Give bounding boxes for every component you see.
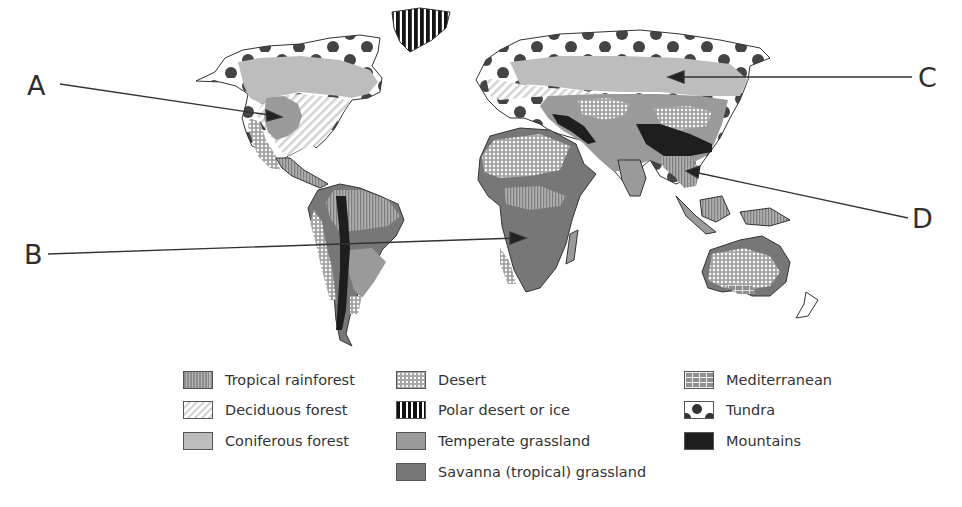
callout-label-c: C xyxy=(918,64,937,91)
legend-label: Savanna (tropical) grassland xyxy=(438,464,646,480)
legend-item-coniferous-forest: Coniferous forest xyxy=(183,430,349,452)
australia xyxy=(702,236,818,318)
coniferous-forest-swatch xyxy=(183,432,213,450)
legend-label: Polar desert or ice xyxy=(438,402,570,418)
legend-item-savanna: Savanna (tropical) grassland xyxy=(396,461,646,483)
legend-item-tundra: Tundra xyxy=(684,399,775,421)
legend-item-tropical-rainforest: Tropical rainforest xyxy=(183,369,355,391)
legend-item-temperate-grassland: Temperate grassland xyxy=(396,430,590,452)
legend-label: Coniferous forest xyxy=(225,433,349,449)
map-graphic xyxy=(0,0,962,360)
north-america xyxy=(196,35,382,188)
deciduous-forest-swatch xyxy=(183,401,213,419)
callout-label-a: A xyxy=(27,72,45,99)
mediterranean-swatch xyxy=(684,371,714,389)
legend-item-mountains: Mountains xyxy=(684,430,801,452)
legend-item-deciduous-forest: Deciduous forest xyxy=(183,399,348,421)
legend-label: Tundra xyxy=(726,402,775,418)
legend-label: Desert xyxy=(438,372,486,388)
legend-label: Mediterranean xyxy=(726,372,832,388)
mountains-swatch xyxy=(684,432,714,450)
savanna-swatch xyxy=(396,463,426,481)
callout-line-b xyxy=(48,238,518,254)
callout-label-d: D xyxy=(912,205,933,232)
legend-label: Mountains xyxy=(726,433,801,449)
africa xyxy=(478,128,596,292)
world-biome-map: A B C D xyxy=(0,0,962,360)
se-asia-islands xyxy=(676,196,790,234)
tropical-rainforest-swatch xyxy=(183,371,213,389)
greenland xyxy=(392,8,450,52)
legend: Tropical rainforest Deciduous forest Con… xyxy=(183,369,883,499)
legend-label: Temperate grassland xyxy=(438,433,590,449)
tundra-swatch xyxy=(684,401,714,419)
polar-desert-ice-swatch xyxy=(396,401,426,419)
desert-swatch xyxy=(396,371,426,389)
legend-label: Deciduous forest xyxy=(225,402,348,418)
south-america xyxy=(308,184,404,346)
temperate-grassland-swatch xyxy=(396,432,426,450)
callout-label-b: B xyxy=(24,241,43,268)
legend-item-polar-desert-ice: Polar desert or ice xyxy=(396,399,570,421)
legend-item-mediterranean: Mediterranean xyxy=(684,369,832,391)
legend-item-desert: Desert xyxy=(396,369,486,391)
legend-label: Tropical rainforest xyxy=(225,372,355,388)
